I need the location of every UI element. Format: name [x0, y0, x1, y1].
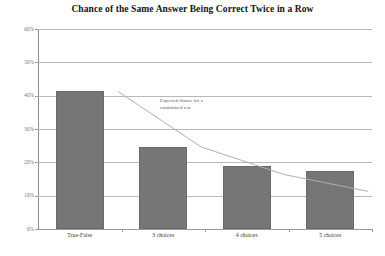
y-tick-label: 60%: [4, 26, 34, 32]
y-tick-label: 20%: [4, 159, 34, 165]
expected-chance-annotation: Expected chance for arandomized test: [160, 97, 240, 111]
x-tick-label: True-False: [38, 232, 122, 238]
chart-container: Chance of the Same Answer Being Correct …: [0, 0, 385, 256]
y-tick-label: 40%: [4, 92, 34, 98]
bar: [306, 171, 354, 229]
bar: [223, 166, 271, 229]
annotation-line-1: Expected chance for a: [160, 97, 240, 104]
y-tick-label: 30%: [4, 126, 34, 132]
x-tick-label: 3 choices: [122, 232, 206, 238]
y-tick-label: 10%: [4, 192, 34, 198]
chart-title: Chance of the Same Answer Being Correct …: [0, 4, 385, 14]
x-tick-mark: [372, 229, 373, 232]
annotation-line-2: randomized test: [160, 104, 240, 111]
plot-area: [38, 29, 372, 229]
bar: [139, 147, 187, 229]
y-tick-label: 0%: [4, 226, 34, 232]
bar: [56, 91, 104, 229]
gridline: [38, 29, 372, 30]
y-tick-label: 50%: [4, 59, 34, 65]
gridline: [38, 62, 372, 63]
x-tick-label: 5 choices: [289, 232, 373, 238]
y-axis-ticks: 0%10%20%30%40%50%60%: [0, 0, 34, 256]
x-axis-labels: True-False3 choices4 choices5 choices: [38, 232, 372, 248]
x-tick-label: 4 choices: [205, 232, 289, 238]
